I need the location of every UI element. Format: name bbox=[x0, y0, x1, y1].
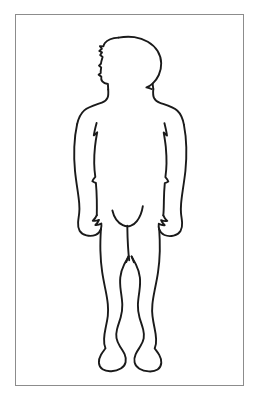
head-outline-icon bbox=[119, 37, 162, 89]
center-line-icon bbox=[127, 226, 129, 260]
left-knee-icon bbox=[126, 256, 128, 262]
groin-icon bbox=[112, 206, 142, 226]
neck-right-icon bbox=[153, 89, 184, 125]
child-body-outline bbox=[0, 0, 260, 400]
right-arm-inner-icon bbox=[163, 123, 168, 215]
right-arm-outer-icon bbox=[159, 125, 186, 236]
right-leg-outer-icon bbox=[132, 229, 162, 371]
hair-icon bbox=[99, 38, 119, 90]
neck-left-icon bbox=[77, 90, 108, 125]
left-hand-icon bbox=[93, 215, 102, 229]
page-root bbox=[0, 0, 260, 400]
jaw-right-icon bbox=[146, 84, 152, 89]
right-hand-icon bbox=[159, 215, 168, 229]
left-arm-inner-icon bbox=[92, 123, 97, 215]
left-arm-outer-icon bbox=[74, 124, 101, 236]
right-knee-icon bbox=[132, 257, 134, 263]
left-leg-outer-icon bbox=[99, 229, 129, 371]
